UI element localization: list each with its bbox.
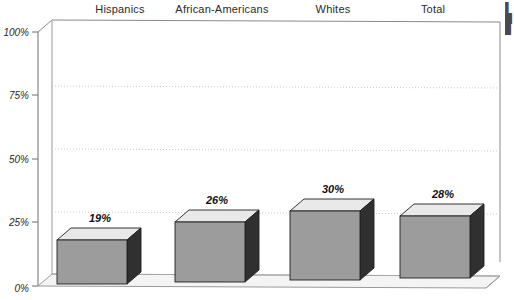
bar-african-americans[interactable] (175, 210, 259, 282)
bar-front-face (290, 211, 360, 280)
category-label-total: Total (421, 3, 445, 15)
bar-side-face (360, 199, 374, 280)
bar-top-face (290, 199, 374, 211)
bar-front-face (175, 222, 245, 282)
bar-total[interactable] (400, 204, 484, 278)
bar-front-face (400, 216, 470, 278)
bar-chart-3d: 100% 75% 50% 25% 0% Hispanics African-Am… (0, 0, 514, 300)
edge-caption-line-2: ▉ (505, 13, 513, 24)
bar-top-face (400, 204, 484, 216)
edge-caption-line-1: ▌ (505, 2, 512, 13)
bar-front-face (57, 240, 127, 284)
category-label-hispanics: Hispanics (95, 3, 145, 15)
bar-side-face (470, 204, 484, 278)
value-label-hispanics: 19% (89, 212, 111, 224)
value-label-african-americans: 26% (205, 194, 228, 206)
category-label-african-americans: African-Americans (175, 3, 269, 15)
bar-whites[interactable] (290, 199, 374, 280)
category-labels: Hispanics African-Americans Whites Total (95, 3, 445, 15)
category-label-whites: Whites (316, 3, 351, 15)
gridline-50 (52, 149, 500, 151)
bar-hispanics[interactable] (57, 228, 141, 284)
y-tick-label-75: 75% (9, 90, 29, 101)
y-tick-label-25: 25% (8, 217, 29, 228)
bar-side-face (245, 210, 259, 282)
value-label-whites: 30% (322, 183, 344, 195)
bar-top-face (57, 228, 141, 240)
bar-top-face (175, 210, 259, 222)
y-tick-label-100: 100% (3, 27, 29, 38)
y-axis-tick-labels: 100% 75% 50% 25% 0% (3, 27, 29, 294)
depth-edge-top-left (38, 20, 52, 32)
gridline-75 (52, 86, 500, 88)
y-tick-label-50: 50% (9, 154, 29, 165)
value-label-total: 28% (431, 188, 454, 200)
y-axis-ticks (32, 32, 38, 286)
bar-value-labels: 19% 26% 30% 28% (89, 183, 454, 224)
y-tick-label-0: 0% (15, 283, 30, 294)
chart-container: 100% 75% 50% 25% 0% Hispanics African-Am… (0, 0, 514, 300)
edge-caption-line-3: ▊ (505, 24, 513, 35)
